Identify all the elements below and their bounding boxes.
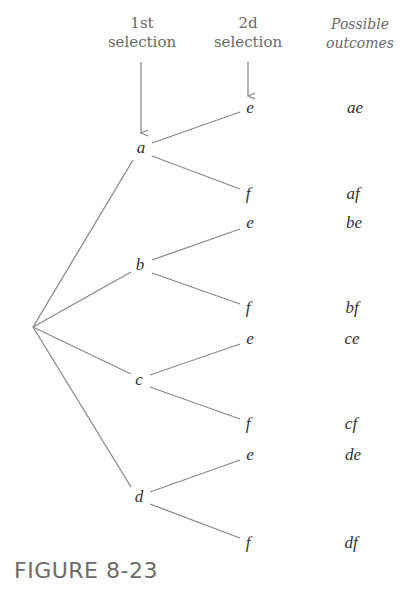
node-second-f: f <box>246 533 251 553</box>
outcome-cf: cf <box>345 414 357 434</box>
node-second-e: e <box>246 445 254 465</box>
node-second-f: f <box>246 414 251 434</box>
node-second-f: f <box>246 298 251 318</box>
node-second-f: f <box>246 184 251 204</box>
outcome-de: de <box>345 445 361 465</box>
node-second-e: e <box>246 213 254 233</box>
node-first-d: d <box>135 487 144 507</box>
node-first-b: b <box>136 255 145 275</box>
node-second-e: e <box>246 329 254 349</box>
outcome-ae: ae <box>347 98 363 118</box>
outcome-bf: bf <box>345 298 358 318</box>
node-first-a: a <box>137 138 146 158</box>
node-first-c: c <box>135 370 143 390</box>
outcome-ce: ce <box>344 329 359 349</box>
node-second-e: e <box>246 98 254 118</box>
tree-diagram-lines <box>0 0 409 589</box>
outcome-af: af <box>346 184 359 204</box>
figure-label: FIGURE 8-23 <box>14 558 158 583</box>
outcome-df: df <box>344 533 357 553</box>
outcome-be: be <box>346 213 362 233</box>
